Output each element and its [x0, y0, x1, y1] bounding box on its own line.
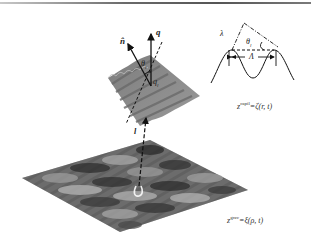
gravity-surface	[22, 140, 248, 232]
theta-l-label: θl	[141, 60, 146, 70]
q-l-label: ql	[153, 78, 158, 88]
capillary-equation: zcapil=ζ(r, t)	[237, 101, 272, 111]
n-hat-label: n̂	[120, 37, 125, 46]
lambda-label: λ	[220, 30, 223, 38]
q-label: q	[156, 28, 161, 37]
Lambda-label: Λ	[248, 53, 255, 61]
capillary-patch	[108, 55, 200, 126]
l-vector-label: l	[134, 128, 136, 136]
gravity-equation: zgrav=ξ(ρ, t)	[227, 215, 263, 225]
theta-l-inset-label: θl	[246, 38, 251, 48]
